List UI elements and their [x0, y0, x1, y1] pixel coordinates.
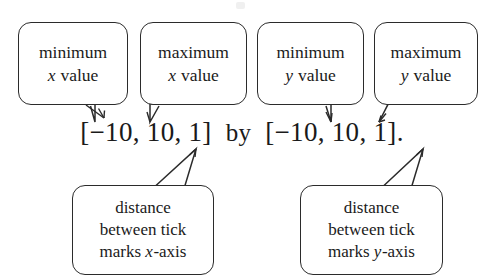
callout-minimum-y-line2: y value: [285, 64, 336, 86]
callout-dist-x-line3: marks x-axis: [100, 241, 187, 263]
callout-maximum-y-line2-rest: value: [409, 65, 451, 85]
tail-max-x: [150, 104, 166, 122]
callout-maximum-x-line2-rest: value: [177, 65, 219, 85]
callout-minimum-y-value: minimum y value: [257, 22, 364, 105]
callout-minimum-x-value: minimum x value: [18, 22, 128, 105]
variable-y: y: [374, 242, 382, 261]
tail-min-y: [312, 104, 331, 122]
arrowhead-min-y-b: [331, 113, 332, 122]
variable-y: y: [401, 65, 409, 85]
callout-dist-x-line2: between tick: [100, 219, 186, 241]
tail-max-y: [379, 104, 403, 122]
callout-distance-between-tick-marks-x-axis: distance between tick marks x-axis: [72, 185, 214, 275]
callout-dist-x-line3-pre: marks: [100, 242, 146, 261]
callout-maximum-y-line2: y value: [401, 64, 452, 86]
callout-maximum-x-value: maximum x value: [140, 22, 247, 105]
variable-x: x: [48, 65, 56, 85]
callout-dist-y-line3-pre: marks: [328, 242, 374, 261]
callout-dist-y-line3-post: -axis: [382, 242, 415, 261]
callout-minimum-x-line2-rest: value: [56, 65, 98, 85]
arrowhead-dist-x-b: [195, 149, 196, 157]
tail-min-x: [76, 104, 95, 122]
variable-x: x: [168, 65, 176, 85]
callout-maximum-x-line1: maximum: [158, 41, 229, 63]
arrowhead-min-x-b: [104, 111, 105, 119]
callout-minimum-x-line1: minimum: [39, 41, 107, 63]
callout-minimum-x-line2: x value: [48, 64, 99, 86]
callout-minimum-y-line1: minimum: [276, 41, 344, 63]
callout-dist-y-line1: distance: [344, 197, 400, 219]
callout-maximum-x-line2: x value: [168, 64, 219, 86]
callout-dist-x-line1: distance: [115, 197, 171, 219]
variable-y: y: [285, 65, 293, 85]
callout-distance-between-tick-marks-y-axis: distance between tick marks y-axis: [300, 185, 443, 275]
callout-dist-y-line3: marks y-axis: [328, 241, 415, 263]
callout-dist-x-line3-post: -axis: [153, 242, 186, 261]
callout-maximum-y-value: maximum y value: [374, 22, 478, 105]
arrowhead-dist-y-b: [422, 149, 423, 157]
callout-dist-y-line2: between tick: [328, 219, 414, 241]
figure-canvas: minimum x value maximum x value minimum …: [0, 0, 484, 278]
callout-maximum-y-line1: maximum: [391, 41, 462, 63]
callout-minimum-y-line2-rest: value: [294, 65, 336, 85]
